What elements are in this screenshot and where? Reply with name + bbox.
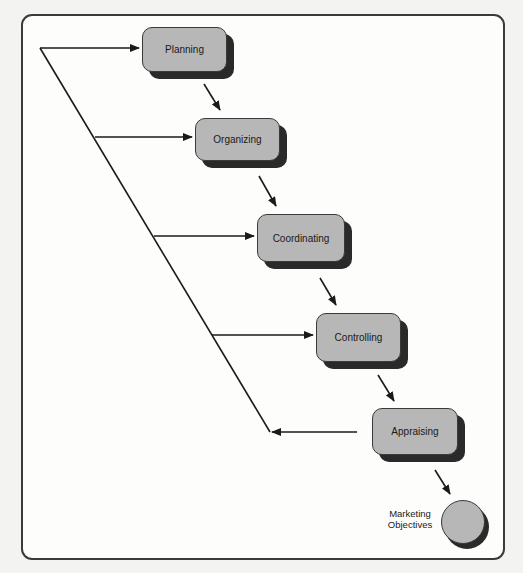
arrow-appraising-to-objectives	[435, 470, 450, 494]
node-organizing: Organizing	[195, 118, 280, 161]
arrow-coordinating-to-controlling	[320, 278, 336, 305]
node-appraising: Appraising	[372, 408, 458, 455]
circle-face	[441, 500, 485, 544]
node-label: Controlling	[316, 313, 401, 362]
node-label: Appraising	[372, 408, 458, 455]
label-line-2: Objectives	[380, 519, 440, 530]
node-marketing-objectives	[441, 500, 485, 544]
feedback-diagonal-line	[40, 48, 270, 432]
node-label: Coordinating	[257, 214, 345, 262]
node-coordinating: Coordinating	[257, 214, 345, 262]
node-planning: Planning	[142, 27, 227, 72]
marketing-objectives-label: Marketing Objectives	[380, 508, 440, 530]
node-label: Planning	[142, 27, 227, 72]
arrow-planning-to-organizing	[204, 84, 220, 110]
arrow-organizing-to-coordinating	[259, 176, 276, 206]
node-controlling: Controlling	[316, 313, 401, 362]
label-line-1: Marketing	[380, 508, 440, 519]
node-label: Organizing	[195, 118, 280, 161]
arrow-controlling-to-appraising	[378, 375, 394, 401]
connector-lines	[0, 0, 523, 573]
